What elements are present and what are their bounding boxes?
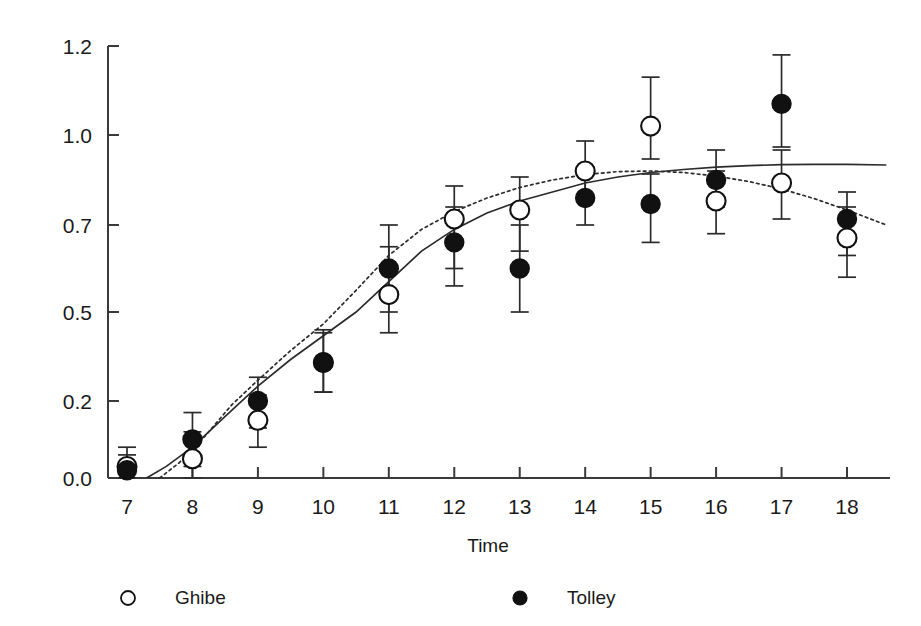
data-marker-ghibe bbox=[445, 210, 464, 229]
chart-figure: 0.00.20.50.71.01.2789101112131415161718T… bbox=[0, 0, 921, 626]
data-marker-tolley bbox=[838, 210, 857, 229]
x-tick-label: 16 bbox=[704, 495, 727, 518]
legend-marker-tolley bbox=[513, 591, 527, 605]
y-tick-label: 0.2 bbox=[63, 390, 92, 413]
data-marker-ghibe bbox=[576, 162, 595, 181]
data-marker-ghibe bbox=[838, 229, 857, 248]
error-bars bbox=[118, 55, 856, 478]
data-marker-ghibe bbox=[707, 192, 726, 211]
data-marker-ghibe bbox=[248, 411, 267, 430]
x-tick-label: 8 bbox=[187, 495, 199, 518]
data-marker-ghibe bbox=[379, 285, 398, 304]
data-marker-tolley bbox=[118, 461, 137, 480]
x-tick-label: 13 bbox=[508, 495, 531, 518]
y-tick-label: 1.0 bbox=[63, 124, 92, 147]
data-marker-tolley bbox=[641, 195, 660, 214]
x-tick-label: 14 bbox=[574, 495, 598, 518]
data-marker-tolley bbox=[510, 259, 529, 278]
data-marker-tolley bbox=[707, 171, 726, 190]
data-marker-ghibe bbox=[183, 449, 202, 468]
data-marker-tolley bbox=[772, 94, 791, 113]
x-tick-label: 9 bbox=[252, 495, 264, 518]
data-marker-tolley bbox=[445, 233, 464, 252]
legend-label-tolley: Tolley bbox=[567, 587, 616, 608]
data-marker-tolley bbox=[379, 259, 398, 278]
data-marker-tolley bbox=[183, 430, 202, 449]
legend: GhibeTolley bbox=[121, 587, 616, 608]
data-marker-tolley bbox=[314, 353, 333, 372]
legend-marker-ghibe bbox=[121, 591, 135, 605]
data-marker-tolley bbox=[248, 392, 267, 411]
data-marker-ghibe bbox=[772, 174, 791, 193]
y-tick-label: 0.5 bbox=[63, 301, 92, 324]
x-tick-label: 15 bbox=[639, 495, 662, 518]
legend-label-ghibe: Ghibe bbox=[175, 587, 226, 608]
y-tick-label: 0.7 bbox=[63, 214, 92, 237]
x-axis-title: Time bbox=[467, 535, 509, 556]
x-tick-label: 18 bbox=[835, 495, 858, 518]
x-tick-label: 7 bbox=[121, 495, 133, 518]
x-tick-label: 12 bbox=[443, 495, 466, 518]
x-tick-label: 11 bbox=[378, 495, 400, 518]
data-marker-ghibe bbox=[510, 201, 529, 220]
y-tick-label: 1.2 bbox=[63, 35, 92, 58]
scatter-plot: 0.00.20.50.71.01.2789101112131415161718T… bbox=[0, 0, 921, 626]
data-markers bbox=[118, 94, 857, 479]
y-tick-label: 0.0 bbox=[63, 467, 92, 490]
data-marker-ghibe bbox=[641, 117, 660, 136]
x-tick-label: 10 bbox=[312, 495, 335, 518]
data-marker-tolley bbox=[576, 189, 595, 208]
x-tick-label: 17 bbox=[770, 495, 793, 518]
